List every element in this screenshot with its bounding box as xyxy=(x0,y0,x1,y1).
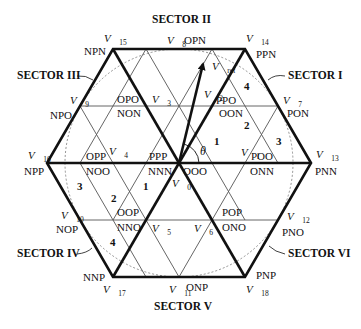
sector-iii-region-3: 3 xyxy=(77,180,83,192)
v18-label: V⃗18 xyxy=(246,283,269,298)
v10-label: V⃗10 xyxy=(61,209,84,224)
onn-state: ONN xyxy=(250,165,274,177)
sector-i-region-4: 4 xyxy=(244,80,250,92)
theta-arc xyxy=(184,144,199,163)
sector-v-label: SECTOR V xyxy=(154,300,213,312)
oop-state: OOP xyxy=(117,206,139,218)
noo-state: NOO xyxy=(86,165,110,177)
npp-state: NPP xyxy=(24,165,44,177)
opo-state: OPO xyxy=(117,93,139,105)
onp-state: ONP xyxy=(186,281,208,293)
pno-state: PNO xyxy=(282,226,304,238)
v12-label: V⃗12 xyxy=(287,210,310,225)
sector-iv-region-4: 4 xyxy=(110,236,116,248)
non-state: NON xyxy=(117,107,141,119)
ppn-state: PPN xyxy=(256,48,276,60)
sector-i-label: SECTOR I xyxy=(288,69,343,81)
sector-iv-label: SECTOR IV xyxy=(17,247,80,259)
sector-ii-label: SECTOR II xyxy=(152,13,211,25)
nop-state: NOP xyxy=(56,223,78,235)
poo-state: POO xyxy=(251,150,273,162)
v16-label: V⃗16 xyxy=(28,149,51,164)
oon-state: OON xyxy=(219,107,243,119)
v17-label: V⃗17 xyxy=(103,283,126,298)
sector-iii-region-2: 2 xyxy=(111,192,117,204)
v4-label: V⃗4 xyxy=(109,145,128,160)
theta-label: θ xyxy=(200,144,206,158)
v13-label: V⃗13 xyxy=(316,148,339,163)
npn-state: NPN xyxy=(84,45,106,57)
ppo-state: PPO xyxy=(216,94,236,106)
v15-label: V⃗15 xyxy=(104,32,127,47)
pon-state: PON xyxy=(287,107,309,119)
sector-iii-region-1: 1 xyxy=(143,180,149,192)
opp-state: OPP xyxy=(86,150,106,162)
ono-state: ONO xyxy=(222,221,246,233)
sector-i-region-2: 2 xyxy=(244,119,250,131)
npo-state: NPO xyxy=(50,109,72,121)
opn-state: OPN xyxy=(184,34,206,46)
ppp-state: PPP xyxy=(149,150,167,162)
nno-state: NNO xyxy=(117,221,141,233)
nnn-state: NNN xyxy=(148,165,172,177)
nnp-state: NNP xyxy=(83,271,105,283)
v14-label: V⃗14 xyxy=(246,32,269,47)
sector-vi-label: SECTOR VI xyxy=(288,247,351,259)
sector-i-region-3: 3 xyxy=(276,135,282,147)
sector-iii-label: SECTOR III xyxy=(17,69,81,81)
ooo-state: OOO xyxy=(183,165,207,177)
space-vector-diagram: θ SECTOR II SECTOR I SECTOR III SECTOR I… xyxy=(0,0,361,329)
sector-i-region-1: 1 xyxy=(214,135,220,147)
pop-state: POP xyxy=(222,206,242,218)
pnp-state: PNP xyxy=(256,269,276,281)
pnn-state: PNN xyxy=(315,165,337,177)
